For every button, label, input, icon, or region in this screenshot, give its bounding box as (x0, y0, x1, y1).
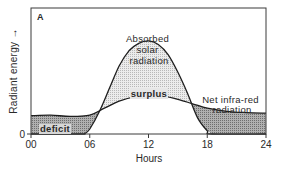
radiation-balance-chart: 0006121824 0 A Hours Radiant energy → Ab… (0, 0, 281, 180)
y-tick-label: 0 (19, 129, 25, 140)
x-tick-label: 06 (84, 139, 96, 150)
x-tick-label: 18 (202, 139, 214, 150)
x-axis-ticks: 0006121824 (25, 134, 272, 150)
surplus-label: surplus (131, 88, 167, 99)
panel-label: A (37, 12, 44, 22)
x-axis-label: Hours (136, 153, 163, 164)
annotation-line: Absorbed (126, 33, 169, 44)
x-tick-label: 24 (260, 139, 272, 150)
annotation-line: radiation (212, 104, 251, 115)
y-axis-label: Radiant energy → (8, 28, 19, 113)
deficit-label: deficit (40, 123, 71, 134)
annotation-line: solar (136, 44, 158, 55)
x-tick-label: 12 (143, 139, 155, 150)
annotation-line: radiation (129, 55, 168, 66)
x-tick-label: 00 (25, 139, 37, 150)
